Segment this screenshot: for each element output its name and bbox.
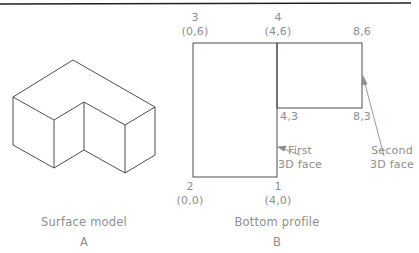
first-3d-face-line2: 3D face [278, 159, 322, 171]
point-3-number: 3 [191, 12, 198, 24]
first-face-arrowhead [278, 146, 286, 151]
first-3d-face-rect [193, 43, 277, 177]
figure-b-caption: Bottom profile [235, 216, 320, 228]
figure: 3 (0,6) 4 (4,6) 8,6 4,3 8,3 First 3D fac… [0, 0, 419, 253]
top-rule [0, 3, 411, 4]
point-1-number: 1 [274, 181, 281, 193]
figure-b-letter: B [273, 236, 281, 248]
bottom-profile-drawing [193, 43, 362, 177]
point-8-6-label: 8,6 [353, 26, 371, 38]
second-3d-face-line1: Second [371, 145, 413, 157]
second-3d-face-rect [277, 43, 362, 108]
point-8-3-label: 8,3 [353, 111, 371, 123]
second-face-arrowhead [362, 76, 367, 85]
point-2-coord: (0,0) [176, 195, 203, 207]
second-3d-face-line2: 3D face [370, 159, 414, 171]
point-3-coord: (0,6) [181, 26, 208, 38]
point-4-3-label: 4,3 [280, 111, 298, 123]
figure-a-caption: Surface model [41, 216, 127, 228]
first-3d-face-line1: First [288, 145, 312, 157]
surface-model-drawing [13, 60, 155, 173]
point-1-coord: (4,0) [264, 195, 291, 207]
point-4-number: 4 [274, 12, 281, 24]
point-4-coord: (4,6) [264, 26, 291, 38]
figure-a-letter: A [80, 236, 88, 248]
point-2-number: 2 [186, 181, 193, 193]
